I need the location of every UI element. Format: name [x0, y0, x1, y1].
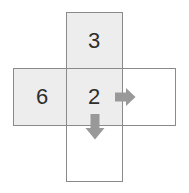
- arrow-right-glyph: [115, 88, 136, 106]
- arrow-down-glyph: [86, 114, 105, 140]
- cell-value-centre: 2: [74, 86, 114, 108]
- diagram-canvas: 3 6 2: [0, 0, 189, 193]
- cell-value-left: 6: [22, 86, 62, 108]
- cell-value-top: 3: [74, 30, 114, 52]
- arrow-right-icon[interactable]: [113, 85, 137, 109]
- arrow-down-icon[interactable]: [83, 112, 107, 142]
